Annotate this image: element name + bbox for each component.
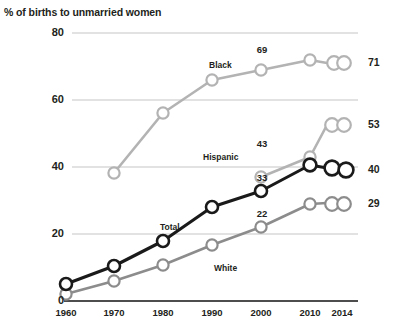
y-tick-20: 20 bbox=[38, 227, 64, 239]
end-label-white: 29 bbox=[368, 197, 380, 209]
x-tick-2000: 2000 bbox=[239, 307, 283, 318]
end-label-black: 71 bbox=[368, 56, 380, 68]
point-label-hispanic-2000: 43 bbox=[252, 138, 272, 149]
point-label-total-2000: 33 bbox=[252, 172, 272, 183]
series-total bbox=[60, 159, 353, 290]
series-label-hispanic: Hispanic bbox=[203, 152, 238, 162]
y-tick-40: 40 bbox=[38, 160, 64, 172]
series-label-total: Total bbox=[160, 222, 180, 232]
y-tick-80: 80 bbox=[38, 26, 64, 38]
end-label-hispanic: 53 bbox=[368, 118, 380, 130]
x-tick-1980: 1980 bbox=[141, 307, 185, 318]
series-label-black: Black bbox=[209, 60, 232, 70]
x-tick-1990: 1990 bbox=[190, 307, 234, 318]
end-label-total: 40 bbox=[368, 163, 380, 175]
y-tick-60: 60 bbox=[38, 93, 64, 105]
x-tick-1970: 1970 bbox=[92, 307, 136, 318]
y-tick-0: 0 bbox=[38, 294, 64, 306]
x-tick-2014: 2014 bbox=[320, 307, 364, 318]
point-label-white-2000: 22 bbox=[252, 208, 272, 219]
series-label-white: White bbox=[214, 263, 237, 273]
x-tick-1960: 1960 bbox=[44, 307, 88, 318]
point-label-black-2000: 69 bbox=[252, 44, 272, 55]
